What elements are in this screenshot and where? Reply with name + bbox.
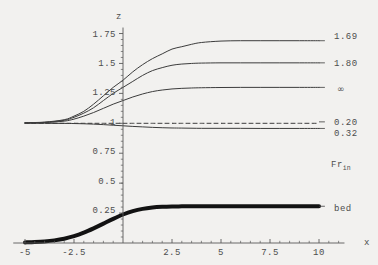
plot-figure: z x 1.75 1.5 1.25 1 0.75 0.5 0.25 -5 -2.…	[0, 0, 378, 265]
x-tick-label: 2.5	[152, 248, 192, 258]
legend-title-main: Fr	[331, 160, 343, 170]
series-label-bed: bed	[334, 204, 352, 214]
x-tick-label: 5	[201, 248, 241, 258]
y-tick-label: 0.75	[72, 147, 116, 157]
series-label-1: 1.69	[334, 32, 358, 42]
legend-title: Frin	[331, 160, 351, 174]
y-tick-label: 1.25	[72, 88, 116, 98]
y-axis-label: z	[116, 12, 122, 22]
curve-	[25, 87, 319, 123]
x-tick-label: 7.5	[250, 248, 290, 258]
series-label-4: 0.20	[334, 118, 358, 128]
series-label-5: 0.32	[334, 129, 358, 139]
plot-canvas	[0, 0, 378, 265]
curve-bed	[25, 206, 319, 242]
x-tick-label: 10	[299, 248, 339, 258]
y-tick-label: 1.5	[72, 59, 116, 69]
y-tick-label: 1.75	[72, 30, 116, 40]
x-tick-label: -5	[5, 248, 45, 258]
x-tick-label: -2.5	[54, 248, 94, 258]
y-tick-label: 0.25	[72, 206, 116, 216]
axes-group	[13, 28, 344, 243]
curve-032	[25, 123, 319, 128]
x-axis-label: x	[364, 238, 370, 248]
curve-180	[25, 63, 319, 123]
series-label-2: 1.80	[334, 59, 358, 69]
y-tick-label: 0.5	[72, 177, 116, 187]
curve-169	[25, 41, 319, 123]
curves-group	[25, 41, 325, 243]
y-tick-label: 1	[72, 118, 116, 128]
series-label-3: ∞	[337, 84, 345, 94]
legend-title-subscript: in	[343, 165, 351, 172]
